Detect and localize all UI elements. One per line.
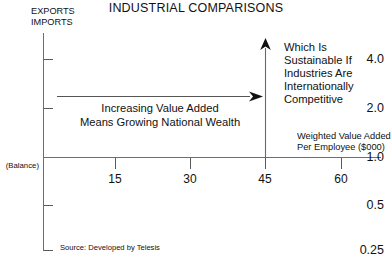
- growth-annotation-text: Increasing Value Added Means Growing Nat…: [20, 101, 300, 129]
- x-axis-caption: Weighted Value Added Per Employee ($000): [297, 131, 391, 153]
- sustainability-annotation-line-1: Which Is: [284, 41, 354, 54]
- y-axis-caption-line-imports: IMPORTS: [31, 17, 75, 28]
- y-axis-label-4.0: 4.0: [349, 52, 392, 66]
- y-axis-label-0.25: 0.25: [349, 243, 392, 257]
- y-axis-label-0.5: 0.5: [349, 198, 392, 212]
- x-axis-label-30: 30: [170, 172, 210, 186]
- y-axis-tick-4.0: [44, 59, 53, 60]
- x-axis-tick-15: [115, 158, 116, 169]
- sustainability-annotation-line-3: Industries Are: [284, 67, 354, 80]
- sustainability-annotation-line-2: Sustainable If: [284, 54, 354, 67]
- x-axis-label-60: 60: [321, 172, 361, 186]
- x-axis-tick-30: [190, 158, 191, 169]
- sustainability-annotation-text: Which Is Sustainable If Industries Are I…: [284, 41, 354, 106]
- y-axis-tick-0.25: [44, 250, 53, 251]
- x-axis-tick-60: [341, 158, 342, 169]
- x-axis-label-15: 15: [95, 172, 135, 186]
- y-axis-balance-note: (Balance): [0, 161, 43, 170]
- y-axis-line: [43, 33, 44, 251]
- sustainability-arrow-icon: [258, 38, 273, 158]
- sustainability-annotation-line-5: Competitive: [284, 93, 354, 106]
- x-axis-line: [43, 157, 381, 158]
- y-axis-caption: EXPORTS IMPORTS: [31, 6, 75, 28]
- source-note: Source: Developed by Telesis: [60, 243, 160, 252]
- sustainability-annotation-line-4: Internationally: [284, 80, 354, 93]
- growth-annotation-line-1: Increasing Value Added: [20, 101, 300, 115]
- growth-annotation-line-2: Means Growing National Wealth: [20, 115, 300, 129]
- x-axis-caption-line-1: Weighted Value Added: [297, 131, 391, 142]
- x-axis-label-45: 45: [245, 172, 285, 186]
- y-axis-tick-0.5: [44, 205, 53, 206]
- y-axis-label-2.0: 2.0: [349, 101, 392, 115]
- x-axis-caption-line-2: Per Employee ($000): [297, 142, 391, 153]
- x-axis-tick-45: [265, 158, 266, 169]
- y-axis-caption-line-exports: EXPORTS: [31, 6, 75, 17]
- chart-figure: INDUSTRIAL COMPARISONS EXPORTS IMPORTS 4…: [0, 0, 392, 268]
